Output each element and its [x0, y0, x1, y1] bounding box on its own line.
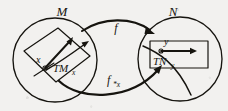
tangent-map-figure: M N x y TM x TN y f f *x: [0, 0, 228, 111]
source-tangent-space-subscript: x: [71, 68, 76, 77]
map-pushforward-label: f *x: [107, 73, 121, 89]
figure-canvas: M N x y TM x TN y f f *x: [0, 0, 228, 111]
tangent-vector-at-y: [161, 48, 197, 54]
source-point-label: x: [35, 54, 41, 65]
target-tangent-space-text: TN: [153, 55, 167, 67]
target-manifold-label: N: [168, 4, 179, 19]
map-pushforward-text: f: [107, 73, 112, 87]
source-manifold-label: M: [56, 4, 69, 19]
target-tangent-space-subscript: y: [170, 61, 175, 70]
map-pushforward-subscript: *x: [113, 80, 121, 89]
target-point-label: y: [163, 36, 169, 47]
map-f-arrow: [82, 20, 155, 34]
map-f-label: f: [114, 21, 119, 35]
source-tangent-space-text: TM: [53, 62, 69, 74]
